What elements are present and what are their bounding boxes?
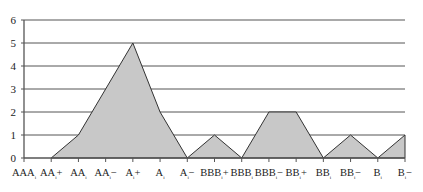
x-tick-label: BBi− [340, 167, 361, 180]
y-tick-label: 1 [11, 129, 17, 141]
y-tick-label: 6 [11, 14, 17, 26]
x-tick-label: Ai− [180, 167, 195, 180]
x-axis-ticks: AAAiAAi+AAiAAi−Ai+AiAi−BBBi+BBBiBBBi−BBi… [12, 158, 412, 180]
x-tick-label: AAi [70, 167, 87, 180]
x-tick-label: BBBi+ [200, 167, 228, 180]
y-tick-label: 5 [11, 37, 17, 49]
x-tick-label: Bi− [398, 167, 412, 180]
y-tick-label: 2 [11, 106, 17, 118]
y-axis-ticks: 0123456 [11, 14, 25, 164]
x-tick-label: Ai [156, 167, 166, 180]
x-tick-label: Ai+ [125, 167, 140, 180]
x-tick-label: AAi+ [40, 167, 63, 180]
x-tick-label: BBi+ [285, 167, 306, 180]
x-tick-label: AAi− [94, 167, 117, 180]
area-series [51, 43, 405, 158]
gridlines [24, 20, 405, 135]
x-tick-label: BBBi− [255, 167, 283, 180]
area-chart: 0123456 AAAiAAi+AAiAAi−Ai+AiAi−BBBi+BBBi… [0, 0, 423, 192]
x-tick-label: BBi [316, 167, 332, 180]
y-tick-label: 3 [11, 83, 17, 95]
x-tick-label: AAAi [12, 167, 37, 180]
y-tick-label: 0 [11, 152, 17, 164]
y-tick-label: 4 [11, 60, 17, 72]
x-tick-label: BBBi [231, 167, 254, 180]
x-tick-label: Bi [374, 167, 383, 180]
